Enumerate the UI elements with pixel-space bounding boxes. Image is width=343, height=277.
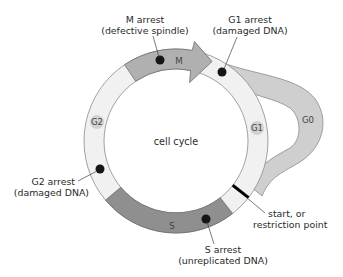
center-label: cell cycle [154, 136, 198, 147]
g2-badge: G2 [90, 115, 104, 129]
s-arrest-label: S arrest (unreplicated DNA) [178, 244, 268, 266]
s-arrest-dot [202, 215, 211, 224]
svg-text:S arrest: S arrest [205, 244, 242, 255]
g1-arrest-label: G1 arrest (damaged DNA) [212, 14, 287, 36]
svg-text:G1: G1 [251, 123, 263, 133]
m-phase-label: M [175, 56, 182, 66]
g1-arrest-dot [218, 68, 227, 77]
svg-text:G2: G2 [91, 117, 103, 127]
svg-text:G2 arrest: G2 arrest [31, 176, 75, 187]
g1-badge: G1 [250, 121, 264, 135]
m-phase-arrow [125, 42, 212, 83]
restriction-point-leader [246, 197, 265, 213]
svg-text:(damaged DNA): (damaged DNA) [212, 25, 287, 36]
svg-text:(defective spindle): (defective spindle) [101, 25, 189, 36]
cell-cycle-diagram: G2 G1 M S G0 cell cycle M arrest (defect… [0, 0, 343, 277]
svg-text:G1 arrest: G1 arrest [228, 14, 272, 25]
m-arrest-label: M arrest (defective spindle) [101, 14, 189, 36]
svg-text:M arrest: M arrest [126, 14, 165, 25]
restriction-point-label: start, or restriction point [253, 208, 328, 230]
g0-phase-label: G0 [302, 115, 314, 125]
g2-arrest-dot [96, 165, 105, 174]
g2-arrest-label: G2 arrest (damaged DNA) [14, 176, 89, 198]
svg-text:restriction point: restriction point [253, 219, 328, 230]
s-phase-label: S [169, 221, 174, 231]
g1-arrest-leader [224, 37, 237, 69]
m-arrest-dot [156, 56, 165, 65]
svg-text:(unreplicated DNA): (unreplicated DNA) [178, 255, 268, 266]
svg-text:(damaged DNA): (damaged DNA) [14, 187, 89, 198]
svg-text:start, or: start, or [268, 208, 306, 219]
